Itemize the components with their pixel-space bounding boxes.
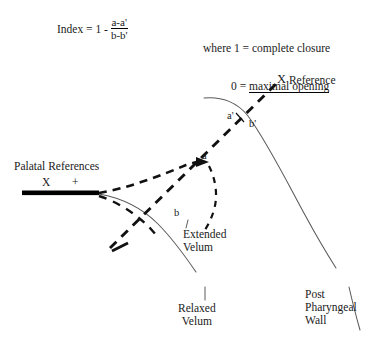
palatal-marker-x: X (42, 176, 50, 189)
point-b-label: b (174, 207, 179, 219)
extended-velum-dashed-upper (99, 160, 203, 193)
extended-velum-dashed-descender (203, 166, 216, 233)
legend-line1-value: complete closure (252, 42, 330, 54)
x-reference-label: X Reference (277, 72, 336, 87)
point-a-prime-label: a' (227, 110, 234, 122)
post-pharyngeal-wall-label: Post Pharyngeal Wall (305, 288, 357, 327)
formula-numerator: a-a' (111, 17, 126, 28)
x-reference-text: Reference (286, 74, 335, 86)
formula-denominator: b-b' (111, 30, 128, 41)
extended-velum-label: Extended Velum (183, 228, 226, 254)
index-legend: where 1 = complete closure 0 = maximal o… (203, 16, 330, 119)
relaxed-velum-curve (99, 194, 196, 272)
relaxed-velum-label: Relaxed Velum (178, 302, 216, 328)
extended-velum-leader (186, 220, 188, 228)
palatal-reference-bar (22, 191, 99, 196)
velum-dashed-lower-tail (99, 196, 158, 237)
x-reference-marker: X (277, 72, 286, 86)
legend-line1-prefix: where 1 = (203, 42, 252, 54)
palatal-references-label: Palatal References (14, 160, 99, 173)
formula-lead: Index = 1 - (57, 23, 108, 36)
point-b-prime-label: b' (249, 118, 256, 130)
reference-line-lower-stub (112, 243, 128, 251)
palatal-marker-plus: + (72, 176, 79, 189)
legend-row-complete-closure: where 1 = complete closure (203, 42, 330, 55)
formula-fraction: a-a' b-b' (111, 17, 128, 41)
closure-index-formula: Index = 1 - a-a' b-b' (57, 17, 128, 41)
point-a-label: a (202, 150, 207, 162)
velopharyngeal-closure-figure: Index = 1 - a-a' b-b' where 1 = complete… (0, 0, 381, 347)
legend-line2-prefix: 0 = (231, 80, 249, 92)
